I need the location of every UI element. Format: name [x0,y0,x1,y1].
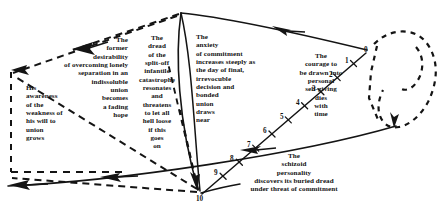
scale-tick-4: 4 [296,100,300,107]
scale-tick-2: 2 [329,72,333,79]
dashed-right-blob-swirl [400,47,422,90]
dashed-right-blob-inner-left [369,46,379,122]
scale-tick-5: 5 [280,114,284,121]
scale-tick-3: 3 [312,86,316,93]
scale-tick-0: 0 [364,47,368,54]
arrowhead-into-blob [390,112,399,128]
scale-tick-10: 10 [196,196,203,203]
scale-tick-6: 6 [263,128,267,135]
label-his-awareness: His awareness of the weakness of his wil… [26,84,106,142]
dashed-right-blob-outer [374,31,436,127]
scale-tick-9: 9 [214,170,218,177]
scale-tick-8: 8 [230,156,234,163]
scale-tick-7: 7 [247,142,251,149]
diagram-canvas: The former desirability of overcoming lo… [0,0,444,211]
scale-tick-1: 1 [345,58,349,65]
label-dread-split-off: The dread of the split-off infantile cat… [134,34,180,151]
label-anxiety-of-commitment: The anxiety of commitment increases stee… [196,33,286,125]
label-schizoid-personality: The schizoid personality discovers its b… [212,152,376,194]
